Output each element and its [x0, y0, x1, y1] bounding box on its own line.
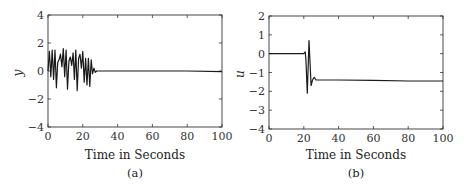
y-tick-label: 4 [37, 9, 44, 22]
y-tick-label: −2 [28, 93, 44, 106]
y-tick-label: −3 [249, 104, 265, 117]
x-axis-label-a: Time in Seconds [85, 148, 185, 162]
series-line-u [269, 41, 443, 94]
chart-panel-b: −4−3−2−1012 020406080100 u Time in Secon… [233, 10, 454, 180]
x-tick-label: 60 [145, 130, 159, 143]
y-tick-label: −4 [249, 123, 265, 136]
y-tick-label: 2 [258, 10, 265, 23]
x-tick-label: 0 [45, 130, 52, 143]
panel-caption-a: (a) [127, 166, 143, 180]
x-axis-ticks-a: 020406080100 [45, 15, 233, 143]
x-tick-label: 80 [401, 132, 415, 145]
x-tick-label: 80 [180, 130, 194, 143]
x-tick-label: 0 [266, 132, 273, 145]
plot-frame-b [269, 16, 443, 129]
panel-caption-b: (b) [348, 166, 364, 180]
series-line-y [48, 49, 222, 91]
x-tick-label: 100 [212, 130, 233, 143]
y-tick-label: 0 [258, 48, 265, 61]
y-axis-ticks-b: −4−3−2−1012 [249, 10, 443, 136]
y-axis-label-b: u [233, 70, 247, 78]
x-axis-label-b: Time in Seconds [306, 148, 406, 162]
x-tick-label: 20 [297, 132, 311, 145]
x-tick-label: 40 [332, 132, 346, 145]
x-tick-label: 40 [111, 130, 125, 143]
chart-panel-a: −4−2024 020406080100 y Time in Seconds (… [11, 9, 233, 180]
y-tick-label: 0 [37, 65, 44, 78]
y-tick-label: 2 [37, 37, 44, 50]
x-tick-label: 60 [366, 132, 380, 145]
figure: −4−2024 020406080100 y Time in Seconds (… [0, 0, 469, 186]
x-tick-label: 100 [433, 132, 454, 145]
y-axis-label-a: y [11, 69, 25, 77]
y-tick-label: −4 [28, 121, 44, 134]
y-tick-label: −1 [249, 67, 265, 80]
y-tick-label: 1 [258, 29, 265, 42]
y-tick-label: −2 [249, 85, 265, 98]
x-tick-label: 20 [76, 130, 90, 143]
